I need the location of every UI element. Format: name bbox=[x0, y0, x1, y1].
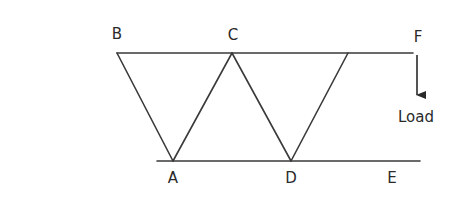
member-CD bbox=[232, 53, 291, 161]
member-AC bbox=[173, 53, 232, 161]
load-label: Load bbox=[398, 110, 434, 125]
member-BA bbox=[117, 53, 173, 161]
node-label-d: D bbox=[285, 171, 297, 186]
member-DG bbox=[291, 53, 348, 161]
node-label-c: C bbox=[228, 28, 238, 43]
node-label-f: F bbox=[414, 30, 423, 45]
node-label-b: B bbox=[112, 27, 122, 42]
node-label-a: A bbox=[168, 171, 178, 186]
node-label-e: E bbox=[387, 171, 396, 186]
